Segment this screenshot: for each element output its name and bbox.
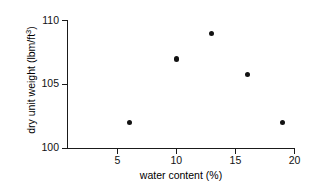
scatter-chart-figure: 100105110 5101520 dry unit weight (lbm/f… [0,0,314,189]
data-point [127,120,132,125]
data-point [209,31,214,36]
y-axis-title-exponent: 3 [24,30,33,34]
data-point [245,72,250,77]
y-axis-title-close-paren: ) [25,26,37,30]
data-point [280,120,285,125]
data-point [174,56,179,61]
data-points-layer [0,0,314,189]
y-axis-title: dry unit weight (lbm/ft3) [25,5,37,155]
y-axis-title-text: dry unit weight (lbm/ft [25,34,37,134]
x-axis-title: water content (%) [67,169,295,181]
